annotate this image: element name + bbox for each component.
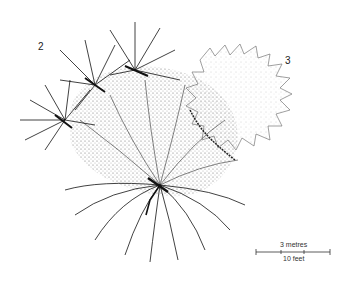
scale-label-feet: 10 feet [283,255,304,262]
tree-label-2: 2 [38,41,44,52]
canopy-illustration [0,0,343,282]
tree-label-3: 3 [285,55,291,66]
scale-label-metres: 3 metres [280,241,307,248]
